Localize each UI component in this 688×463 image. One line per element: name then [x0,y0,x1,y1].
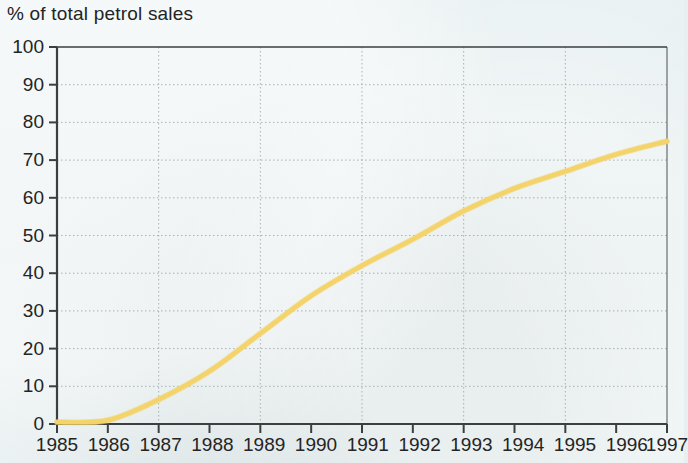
y-axis-ticks [49,47,57,424]
x-axis-ticks [57,424,667,433]
